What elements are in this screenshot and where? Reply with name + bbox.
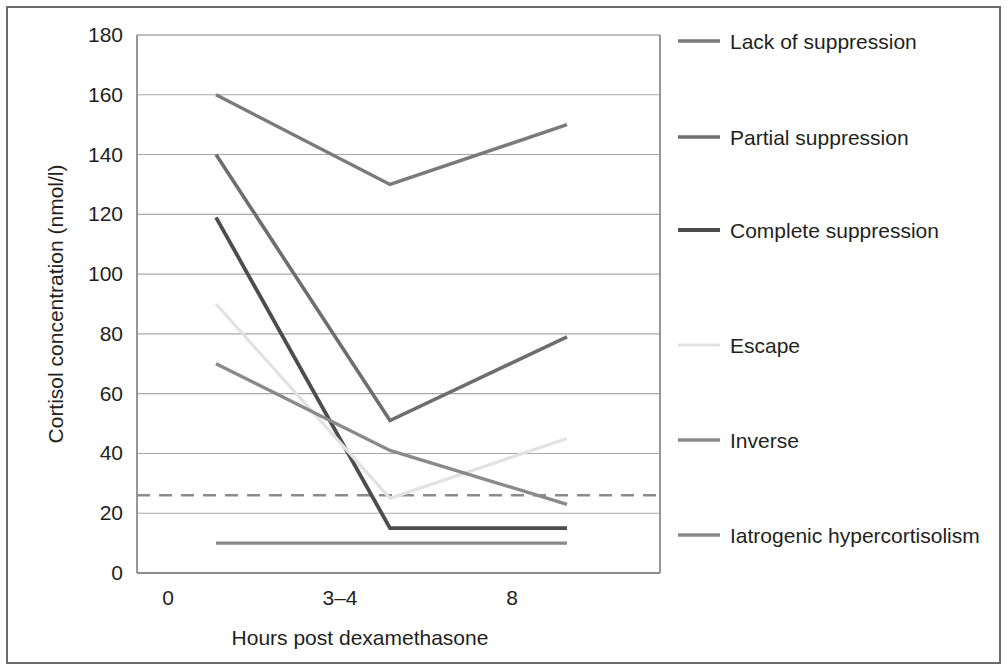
- legend-item-label: Complete suppression: [730, 219, 939, 242]
- cortisol-response-line-chart: 020406080100120140160180 03–48 Lack of s…: [0, 0, 1008, 671]
- series-line: [216, 304, 567, 498]
- legend-item-label: Iatrogenic hypercortisolism: [730, 524, 980, 547]
- y-tick-label: 140: [88, 143, 123, 166]
- y-axis-tick-labels: 020406080100120140160180: [88, 23, 123, 584]
- legend-item-label: Escape: [730, 334, 800, 357]
- series-line: [216, 155, 567, 421]
- legend-item-label: Lack of suppression: [730, 30, 917, 53]
- legend-item[interactable]: Inverse: [678, 429, 799, 452]
- figure-container: 020406080100120140160180 03–48 Lack of s…: [0, 0, 1008, 671]
- x-tick-label: 8: [506, 586, 518, 609]
- legend-item[interactable]: Complete suppression: [678, 219, 939, 242]
- legend-item[interactable]: Iatrogenic hypercortisolism: [678, 524, 980, 547]
- legend-item-label: Inverse: [730, 429, 799, 452]
- x-axis-title: Hours post dexamethasone: [232, 626, 489, 649]
- y-axis-title: Cortisol concentration (nmol/l): [44, 165, 67, 444]
- y-tick-label: 180: [88, 23, 123, 46]
- gridlines: [137, 35, 660, 513]
- series-line: [216, 95, 567, 185]
- legend-item-label: Partial suppression: [730, 126, 909, 149]
- x-tick-label: 0: [162, 586, 174, 609]
- legend-item[interactable]: Escape: [678, 334, 800, 357]
- data-series: [216, 95, 567, 543]
- y-tick-label: 120: [88, 202, 123, 225]
- legend-item[interactable]: Partial suppression: [678, 126, 909, 149]
- axes: [137, 35, 660, 573]
- x-tick-label: 3–4: [322, 586, 357, 609]
- y-tick-label: 20: [100, 501, 123, 524]
- y-tick-label: 0: [111, 561, 123, 584]
- legend: Lack of suppressionPartial suppressionCo…: [678, 30, 980, 547]
- series-line: [216, 364, 567, 504]
- y-tick-label: 40: [100, 441, 123, 464]
- y-tick-label: 80: [100, 322, 123, 345]
- y-tick-label: 100: [88, 262, 123, 285]
- y-tick-label: 60: [100, 382, 123, 405]
- legend-item[interactable]: Lack of suppression: [678, 30, 917, 53]
- x-axis-tick-labels: 03–48: [162, 586, 518, 609]
- y-tick-label: 160: [88, 83, 123, 106]
- series-line: [216, 217, 567, 528]
